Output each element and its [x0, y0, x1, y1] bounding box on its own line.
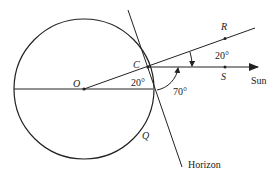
label-Q: Q: [142, 130, 150, 141]
label-angle-sun-horizon: 70°: [173, 86, 187, 97]
label-angle-RCS: 20°: [215, 50, 229, 61]
label-horizon: Horizon: [188, 159, 221, 170]
label-C: C: [133, 59, 140, 70]
point-C: [146, 65, 149, 68]
ray-OC-R: [84, 28, 255, 89]
label-O: O: [73, 78, 80, 89]
label-R: R: [220, 21, 227, 32]
point-R: [224, 37, 227, 40]
point-O: [82, 87, 85, 90]
point-S: [224, 66, 227, 69]
label-angle-O: 20°: [131, 77, 145, 88]
diagram-canvas: O C R S Q 20° 20° 70° Sun Horizon: [0, 0, 276, 180]
angle-arc-RCS: [190, 52, 192, 66]
label-sun: Sun: [251, 75, 267, 86]
label-S: S: [221, 71, 226, 82]
